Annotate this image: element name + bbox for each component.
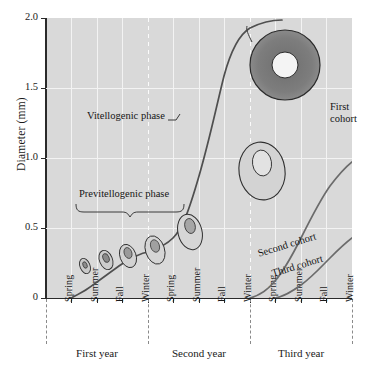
annotation-vitellogenic-phase: Vitellogenic phase bbox=[87, 110, 165, 121]
annotation-previtellogenic-phase: Previtellogenic phase bbox=[79, 188, 169, 199]
gridline-v-year2-end bbox=[250, 18, 251, 298]
season-label-y1-summer: Summer bbox=[89, 268, 100, 303]
season-label-y2-winter: Winter bbox=[242, 274, 253, 302]
season-label-y3-summer: Summer bbox=[293, 268, 304, 303]
annotation-first-cohort: First cohort bbox=[330, 101, 357, 125]
gridline-v-year1-end bbox=[148, 18, 149, 298]
gridline-v-6 bbox=[199, 18, 200, 298]
gridline-v-9 bbox=[275, 18, 276, 298]
year-separator-1 bbox=[148, 299, 149, 344]
season-label-y1-winter: Winter bbox=[140, 274, 151, 302]
season-label-y2-fall: Fall bbox=[216, 286, 227, 302]
gridline-v-11 bbox=[326, 18, 327, 298]
figure-root: 2.0 1.5 1.0 0.5 0 Diameter (mm) Spring S… bbox=[0, 0, 372, 374]
first-cohort-line-2: cohort bbox=[330, 113, 357, 125]
season-label-y3-spring: Spring bbox=[267, 275, 278, 302]
season-label-y3-winter: Winter bbox=[344, 274, 355, 302]
gridline-v-2 bbox=[97, 18, 98, 298]
year-separator-2 bbox=[250, 299, 251, 344]
year-separator-start bbox=[46, 299, 47, 344]
season-label-y2-spring: Spring bbox=[165, 275, 176, 302]
y-axis-title: Diameter (mm) bbox=[15, 69, 27, 199]
year-separator-end bbox=[352, 299, 353, 344]
season-label-y2-summer: Summer bbox=[191, 268, 202, 303]
gridline-v-7 bbox=[224, 18, 225, 298]
y-tick-1.5 bbox=[41, 88, 46, 89]
gridline-v-1 bbox=[71, 18, 72, 298]
first-cohort-line-1: First bbox=[330, 101, 357, 113]
gridline-v-10 bbox=[301, 18, 302, 298]
season-label-y1-fall: Fall bbox=[114, 286, 125, 302]
y-label-0: 0 bbox=[12, 292, 38, 302]
y-tick-1.0 bbox=[41, 158, 46, 159]
y-tick-0.5 bbox=[41, 228, 46, 229]
season-label-y1-spring: Spring bbox=[63, 275, 74, 302]
y-label-0.5: 0.5 bbox=[12, 222, 38, 232]
year-label-second: Second year bbox=[148, 347, 250, 359]
season-label-y3-fall: Fall bbox=[318, 286, 329, 302]
y-tick-2.0 bbox=[41, 18, 46, 19]
y-label-2.0: 2.0 bbox=[12, 12, 38, 22]
year-label-first: First year bbox=[46, 347, 148, 359]
year-label-third: Third year bbox=[250, 347, 352, 359]
gridline-v-5 bbox=[173, 18, 174, 298]
gridline-v-3 bbox=[122, 18, 123, 298]
